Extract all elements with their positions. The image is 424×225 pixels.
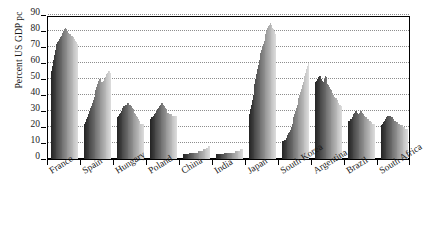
bar bbox=[209, 146, 210, 159]
bar bbox=[77, 44, 78, 159]
bar-group bbox=[249, 17, 275, 159]
y-tick-mark-40 bbox=[41, 95, 46, 96]
y-tick-label-30: 30 bbox=[6, 104, 40, 114]
bar bbox=[341, 106, 342, 159]
bar bbox=[242, 149, 243, 159]
bar-group bbox=[117, 17, 143, 159]
y-tick-mark-30 bbox=[41, 111, 46, 112]
y-tick-label-40: 40 bbox=[6, 88, 40, 98]
x-tick-mark bbox=[212, 160, 213, 165]
y-tick-mark-60 bbox=[41, 63, 46, 64]
bar bbox=[374, 124, 375, 159]
x-tick-mark bbox=[146, 160, 147, 165]
y-tick-label-50: 50 bbox=[6, 72, 40, 82]
x-tick-mark bbox=[409, 160, 410, 165]
y-tick-label-20: 20 bbox=[6, 120, 40, 130]
y-tick-mark-80 bbox=[41, 31, 46, 32]
gridline-90 bbox=[48, 14, 409, 15]
x-tick-mark bbox=[113, 160, 114, 165]
x-tick-mark bbox=[344, 160, 345, 165]
y-tick-label-10: 10 bbox=[6, 136, 40, 146]
x-tick-mark bbox=[245, 160, 246, 165]
bar-group bbox=[348, 17, 374, 159]
y-tick-label-60: 60 bbox=[6, 56, 40, 66]
bar-group bbox=[216, 17, 242, 159]
x-tick-mark bbox=[179, 160, 180, 165]
bar-group bbox=[282, 17, 308, 159]
bar-group bbox=[183, 17, 209, 159]
x-tick-mark bbox=[377, 160, 378, 165]
y-tick-mark-0 bbox=[41, 159, 46, 160]
bar-group bbox=[150, 17, 176, 159]
x-tick-mark bbox=[311, 160, 312, 165]
y-tick-mark-50 bbox=[41, 79, 46, 80]
bar-group bbox=[51, 17, 77, 159]
plot-area bbox=[47, 16, 410, 160]
bar-group bbox=[381, 17, 407, 159]
y-tick-mark-10 bbox=[41, 143, 46, 144]
bar bbox=[143, 124, 144, 159]
bar bbox=[308, 63, 309, 159]
bar-series-container bbox=[48, 17, 409, 159]
y-axis-ticks: 0102030405060708090 bbox=[0, 16, 47, 160]
bar-group bbox=[84, 17, 110, 159]
bar-chart: Percent US GDP pc 0102030405060708090 Fr… bbox=[0, 0, 424, 225]
y-tick-mark-90 bbox=[41, 15, 46, 16]
x-tick-mark bbox=[278, 160, 279, 165]
x-tick-mark bbox=[47, 160, 48, 165]
x-tick-mark bbox=[80, 160, 81, 165]
y-tick-mark-70 bbox=[41, 47, 46, 48]
y-tick-label-80: 80 bbox=[6, 24, 40, 34]
bar bbox=[407, 129, 408, 159]
y-tick-label-70: 70 bbox=[6, 40, 40, 50]
y-tick-mark-20 bbox=[41, 127, 46, 128]
y-tick-label-0: 0 bbox=[6, 152, 40, 162]
bar bbox=[275, 34, 276, 159]
bar-group bbox=[315, 17, 341, 159]
y-tick-label-90: 90 bbox=[6, 8, 40, 18]
bar bbox=[110, 73, 111, 159]
bar bbox=[176, 116, 177, 159]
x-axis-ticks bbox=[47, 160, 410, 166]
